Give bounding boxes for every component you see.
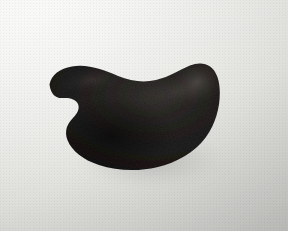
photograph: A large dark near-black bean or kidney s… xyxy=(0,0,288,231)
object-shading xyxy=(0,0,288,231)
kidney-shaped-object-graphic xyxy=(0,0,288,231)
object-layer xyxy=(0,0,288,231)
